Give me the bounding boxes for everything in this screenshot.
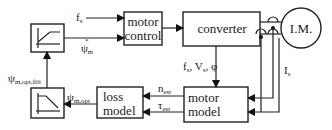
induction-motor-label: I.M. <box>290 21 312 36</box>
psi-m-opt-label: ψm,opt <box>67 91 90 105</box>
fs-vs-phi-label: fs, Vs, φ <box>183 60 217 74</box>
hop-arc-3 <box>268 17 278 22</box>
loss-model-label-1: loss <box>103 89 123 104</box>
tau-est-label: τest <box>158 99 170 113</box>
loss-model-label-2: model <box>103 103 136 118</box>
motor-model-label-1: motor <box>188 90 220 105</box>
motor-control-label-1: motor <box>127 14 159 29</box>
psi-m-star-label: ψ*m <box>81 37 93 56</box>
motor-model-label-2: model <box>188 104 221 119</box>
induction-motor: I.M. <box>281 8 321 48</box>
converter-block: converter <box>183 12 260 46</box>
motor-control-block: motor control <box>124 12 162 45</box>
ramp-down-block <box>31 88 64 118</box>
motor-control-label-2: control <box>125 28 162 43</box>
is-feedback-2 <box>248 38 279 112</box>
motor-model-block: motor model <box>184 87 248 122</box>
psi-m-opt-filt-label: ψm,opt,filt <box>8 72 41 86</box>
loss-model-block: loss model <box>97 87 143 118</box>
ramp-up-block <box>31 24 64 52</box>
block-diagram: motor control converter I.M. loss model … <box>0 0 332 130</box>
converter-label: converter <box>197 21 247 36</box>
fs-label: fs <box>76 11 83 25</box>
is-label: Is <box>284 64 291 78</box>
n-est-label: nest <box>158 82 171 96</box>
